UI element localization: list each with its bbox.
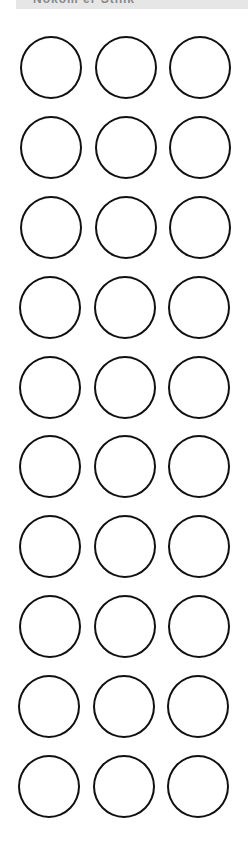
circle-r4-c3	[168, 276, 230, 339]
circle-r5-c3	[168, 356, 230, 419]
circle-grid	[0, 0, 248, 848]
circle-r6-c3	[168, 435, 230, 498]
circle-r8-c3	[168, 595, 230, 658]
circle-r9-c2	[93, 675, 155, 738]
circle-r7-c2	[94, 515, 156, 578]
circle-r1-c1	[20, 36, 82, 99]
circle-r7-c3	[168, 515, 230, 578]
circle-r10-c3	[167, 755, 229, 818]
circle-r1-c3	[169, 36, 231, 99]
circle-r2-c2	[95, 116, 157, 179]
circle-r2-c3	[169, 116, 231, 179]
circle-r4-c2	[94, 276, 156, 339]
circle-r3-c1	[20, 196, 82, 259]
circle-r9-c1	[18, 675, 80, 738]
circle-r8-c1	[19, 595, 81, 658]
circle-r4-c1	[19, 276, 81, 339]
circle-r5-c1	[19, 356, 81, 419]
circle-r9-c3	[167, 675, 229, 738]
circle-r3-c3	[169, 196, 231, 259]
circle-r10-c1	[18, 755, 80, 818]
circle-r3-c2	[95, 196, 157, 259]
circle-r7-c1	[19, 515, 81, 578]
circle-r5-c2	[94, 356, 156, 419]
circle-r8-c2	[94, 595, 156, 658]
circle-r6-c2	[94, 435, 156, 498]
circle-r6-c1	[19, 435, 81, 498]
circle-r2-c1	[20, 116, 82, 179]
circle-r10-c2	[93, 755, 155, 818]
circle-r1-c2	[95, 36, 157, 99]
